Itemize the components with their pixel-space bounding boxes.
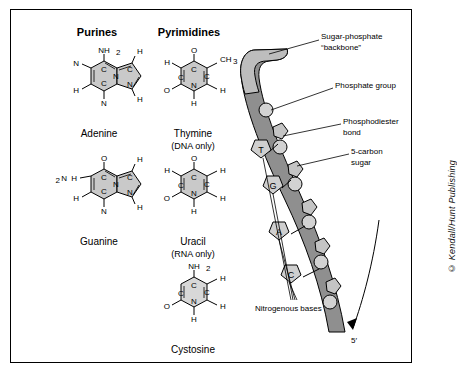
svg-text:H: H [164,166,170,175]
svg-text:C: C [204,180,210,189]
svg-text:O: O [191,46,197,55]
uracil-structure: O H H H O H C N C C [151,154,241,232]
phosphate-circle [314,255,328,269]
svg-text:2: 2 [206,264,211,273]
sugar-pentagon [288,161,303,177]
svg-text:H: H [220,86,226,95]
svg-text:2: 2 [116,48,121,57]
svg-text:O: O [164,194,170,203]
svg-text:2: 2 [56,176,61,185]
svg-text:C: C [127,65,133,74]
svg-text:C: C [204,72,210,81]
svg-text:H: H [191,99,197,108]
phosphate-circle [259,103,273,117]
svg-text:C: C [101,65,107,74]
figure-frame: Purines Pyrimidines NH 2 [10,9,412,363]
guanine-label: Guanine [80,236,118,247]
svg-text:C: C [191,173,197,182]
svg-text:O: O [101,154,107,163]
svg-text:H: H [191,207,197,216]
svg-text:C: C [191,65,197,74]
leader-sugar [297,154,349,166]
cystosine-label: Cystosine [171,344,215,355]
svg-text:H: H [137,47,143,56]
label-five-prime: 5′ [351,336,357,345]
leader-phosphate [271,88,333,110]
figure-root: Purines Pyrimidines NH 2 [0,0,460,379]
svg-text:C: C [101,173,107,182]
molecule-adenine: NH 2 N H N H H C C N C N [49,46,149,124]
svg-text:O: O [164,86,170,95]
svg-text:H: H [220,302,226,311]
uracil-sublabel: (RNA only) [171,249,215,259]
svg-text:NH: NH [98,46,110,55]
uracil-label: Uracil [180,236,206,247]
svg-text:C: C [191,281,197,290]
svg-text:C: C [178,73,184,82]
purines-header: Purines [77,26,117,38]
direction-arrow-head [347,318,357,330]
cystosine-structure: NH 2 H H O H C N C C [151,262,241,340]
thymine-sublabel: (DNA only) [171,141,215,151]
svg-text:NH: NH [188,262,200,271]
molecule-guanine: O H N 2 H N H H C C N C N [49,154,149,232]
svg-text:N: N [73,59,79,68]
label-phosphodiester-line1: Phosphodiester [343,117,399,126]
svg-text:C: C [101,187,107,196]
leader-phosphodiester [283,124,341,136]
label-backbone-line2: “backbone” [321,43,361,52]
thymine-label: Thymine [174,128,212,139]
svg-text:CH: CH [220,55,232,64]
molecule-thymine: O CH 3 H H O H C N C C [151,46,241,124]
svg-text:H: H [137,95,143,104]
molecule-uracil: O H H H O H C N C C [151,154,241,232]
svg-text:N: N [61,174,67,183]
svg-text:H: H [220,274,226,283]
direction-arrow-line [353,220,379,328]
copyright-credit: © Kendall/Hunt Publishing [447,160,457,273]
sugar-pentagon [302,199,317,215]
svg-text:H: H [220,166,226,175]
pyrimidines-header: Pyrimidines [158,26,220,38]
svg-text:O: O [191,154,197,163]
svg-text:C: C [204,288,210,297]
svg-text:H: H [73,86,79,95]
svg-text:N: N [101,207,107,216]
adenine-structure: NH 2 N H N H H C C N C N [49,46,149,124]
label-backbone-line1: Sugar-phosphate [321,32,382,41]
guanine-structure: O H N 2 H N H H C C N C N [49,154,149,232]
base-letter-t: T [258,145,264,155]
thymine-structure: O CH 3 H H O H C N C C [151,46,241,124]
molecule-cystosine: NH 2 H H O H C N C C [151,262,241,340]
svg-text:H: H [191,315,197,324]
label-nitrogenous-bases: Nitrogenous bases [255,304,322,313]
svg-text:N: N [113,72,119,81]
label-phosphate-group: Phosphate group [335,81,396,90]
svg-text:N: N [127,80,133,89]
label-sugar-line1: 5-carbon [351,147,383,156]
svg-text:H: H [71,174,77,183]
svg-text:H: H [137,203,143,212]
svg-text:N: N [191,189,197,198]
leader-backbone [269,40,319,54]
svg-text:N: N [113,180,119,189]
svg-text:C: C [178,181,184,190]
svg-text:N: N [101,99,107,108]
svg-text:H: H [73,194,79,203]
adenine-label: Adenine [81,128,118,139]
label-phosphodiester-line2: bond [343,128,361,137]
svg-text:H: H [220,194,226,203]
svg-text:O: O [164,302,170,311]
svg-text:N: N [191,297,197,306]
phosphate-circle [288,177,302,191]
base-letter-g: G [269,181,276,191]
svg-text:C: C [178,289,184,298]
label-sugar-line2: sugar [351,158,371,167]
svg-text:C: C [101,79,107,88]
svg-text:H: H [137,155,143,164]
svg-text:C: C [127,173,133,182]
svg-text:N: N [191,81,197,90]
svg-text:H: H [164,58,170,67]
phosphate-circle [323,295,337,309]
svg-text:N: N [127,188,133,197]
